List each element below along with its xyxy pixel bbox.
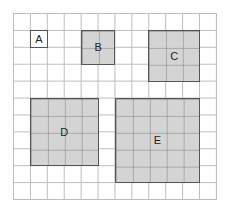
square-a: A	[30, 30, 48, 48]
square-c: C	[148, 30, 200, 82]
square-c-label: C	[170, 50, 178, 62]
square-grid: A B C D E	[13, 13, 217, 200]
square-b-label: B	[94, 41, 101, 53]
square-e-label: E	[154, 134, 161, 146]
square-d: D	[30, 98, 99, 167]
square-b: B	[81, 30, 116, 65]
square-e: E	[115, 98, 201, 184]
square-a-label: A	[35, 33, 42, 45]
square-d-label: D	[60, 126, 68, 138]
